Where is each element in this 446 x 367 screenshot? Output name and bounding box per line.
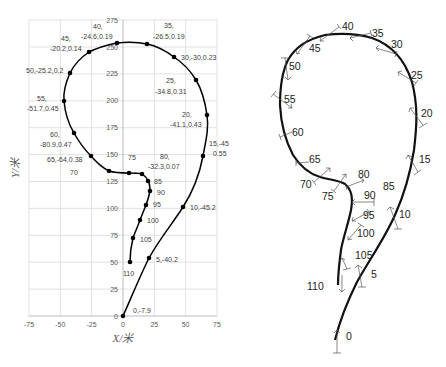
marker-25: [194, 78, 199, 83]
svg-text:40: 40: [342, 20, 354, 32]
x-tick-labels: -75 -50 -25 0 25 50 75: [24, 321, 221, 328]
svg-text:25: 25: [150, 321, 158, 328]
svg-text:-80.9,0.47: -80.9,0.47: [40, 141, 72, 148]
svg-text:-75: -75: [24, 321, 34, 328]
marker-45: [87, 50, 92, 55]
time-labels: 0 5 10 15 20 25 30 35 40 45 50 55 60 65 …: [284, 20, 433, 342]
svg-text:25: 25: [110, 286, 118, 293]
svg-text:40,: 40,: [93, 23, 103, 30]
svg-text:85: 85: [154, 178, 162, 185]
marker-70: [107, 169, 112, 174]
svg-text:-24.6,0.19: -24.6,0.19: [81, 33, 113, 40]
marker-95: [144, 203, 149, 208]
svg-text:-32.3,0.07: -32.3,0.07: [148, 163, 180, 170]
svg-text:0: 0: [121, 321, 125, 328]
svg-text:85: 85: [383, 180, 395, 192]
svg-text:80,: 80,: [160, 153, 170, 160]
svg-text:15,-45: 15,-45: [209, 140, 229, 147]
svg-text:35,: 35,: [164, 22, 174, 29]
svg-text:75: 75: [213, 321, 221, 328]
svg-text:50: 50: [289, 60, 301, 72]
marker-65: [89, 154, 94, 159]
svg-text:50: 50: [110, 259, 118, 266]
svg-text:90: 90: [364, 189, 376, 201]
svg-text:105: 105: [140, 236, 152, 243]
svg-text:90: 90: [157, 189, 165, 196]
svg-text:100: 100: [147, 217, 159, 224]
svg-text:125: 125: [106, 178, 118, 185]
svg-text:80: 80: [358, 168, 370, 180]
svg-text:10: 10: [399, 208, 411, 220]
svg-text:-25: -25: [87, 321, 97, 328]
marker-15: [201, 154, 206, 159]
svg-text:5: 5: [371, 268, 377, 280]
x-axis-title: X/米: [112, 332, 135, 344]
marker-90: [148, 189, 153, 194]
marker-55: [62, 99, 67, 104]
svg-text:-26.5,0.19: -26.5,0.19: [153, 33, 185, 40]
svg-text:75: 75: [128, 154, 136, 161]
marker-0: [121, 314, 126, 319]
svg-text:55,: 55,: [37, 95, 47, 102]
svg-text:0: 0: [114, 313, 118, 320]
marker-80: [140, 172, 145, 177]
svg-text:100: 100: [106, 205, 118, 212]
svg-text:15: 15: [419, 153, 431, 165]
svg-text:30,-30,0.23: 30,-30,0.23: [181, 54, 217, 61]
svg-text:0.55: 0.55: [213, 150, 227, 157]
trajectory-scatter-chart: 0 25 50 75 100 125 150 175 200 225 250 2…: [0, 0, 232, 367]
svg-text:95: 95: [153, 201, 161, 208]
svg-text:75: 75: [322, 190, 334, 202]
marker-50: [68, 71, 73, 76]
svg-text:5,-40.2: 5,-40.2: [156, 256, 178, 263]
svg-text:30: 30: [391, 38, 403, 50]
svg-text:10,-45.2: 10,-45.2: [190, 204, 216, 211]
svg-text:225: 225: [106, 70, 118, 77]
svg-text:65,-64,0.38: 65,-64,0.38: [47, 156, 83, 163]
svg-text:70: 70: [70, 169, 78, 176]
svg-text:20,: 20,: [182, 111, 192, 118]
svg-text:100: 100: [357, 227, 375, 239]
marker-110: [128, 260, 133, 265]
svg-text:50,-25.2,0.2: 50,-25.2,0.2: [26, 67, 63, 74]
svg-text:35: 35: [372, 27, 384, 39]
svg-text:200: 200: [106, 97, 118, 104]
svg-text:-41.1,0.43: -41.1,0.43: [170, 121, 202, 128]
marker-30: [172, 55, 177, 60]
svg-text:-50: -50: [55, 321, 65, 328]
svg-text:110: 110: [307, 280, 324, 292]
marker-10: [181, 205, 186, 210]
svg-text:55: 55: [284, 93, 296, 105]
marker-75: [127, 171, 132, 176]
svg-text:65: 65: [309, 153, 321, 165]
svg-text:70: 70: [300, 178, 312, 190]
svg-text:150: 150: [106, 151, 118, 158]
svg-text:50: 50: [182, 321, 190, 328]
marker-100: [138, 218, 143, 223]
svg-text:20: 20: [421, 107, 433, 119]
svg-text:25,: 25,: [166, 77, 176, 84]
marker-60: [72, 131, 77, 136]
svg-text:45: 45: [309, 42, 321, 54]
svg-text:110: 110: [123, 270, 134, 277]
svg-text:60,: 60,: [50, 131, 60, 138]
marker-35: [145, 42, 150, 47]
marker-20: [205, 113, 210, 118]
marker-105: [131, 236, 136, 241]
svg-text:25: 25: [411, 69, 423, 81]
svg-text:0,-7.9: 0,-7.9: [133, 307, 151, 314]
svg-text:275: 275: [106, 17, 118, 24]
svg-text:95: 95: [363, 209, 375, 221]
svg-text:75: 75: [110, 232, 118, 239]
trajectory-vector-diagram: 0 5 10 15 20 25 30 35 40 45 50 55 60 65 …: [232, 0, 446, 367]
marker-40: [115, 41, 120, 46]
svg-text:-34.8,0.31: -34.8,0.31: [155, 88, 187, 95]
svg-text:0: 0: [346, 330, 352, 342]
marker-85: [146, 179, 151, 184]
svg-text:175: 175: [106, 124, 118, 131]
svg-text:-51.7,0.45: -51.7,0.45: [27, 105, 59, 112]
svg-text:45,: 45,: [61, 35, 71, 42]
marker-5: [147, 256, 152, 261]
svg-text:-20.2,0.14: -20.2,0.14: [50, 45, 82, 52]
svg-text:60: 60: [292, 126, 304, 138]
